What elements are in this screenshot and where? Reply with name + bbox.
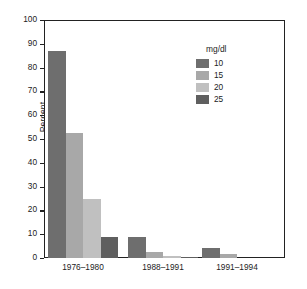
y-tick-label: 100 — [23, 14, 37, 24]
y-tick-label: 90 — [28, 38, 37, 48]
y-tick-label: 50 — [28, 133, 37, 143]
bar — [181, 257, 199, 258]
x-axis-label: 1976–1980 — [43, 262, 123, 272]
x-axis-label: 1988–1991 — [123, 262, 203, 272]
bar — [146, 252, 164, 258]
legend-label: 15 — [214, 71, 223, 80]
bar — [128, 237, 146, 258]
bar — [83, 199, 101, 258]
bar — [48, 51, 66, 258]
bar — [66, 133, 84, 258]
legend-swatch — [196, 71, 209, 80]
bar — [202, 248, 220, 258]
y-tick-label: 70 — [28, 85, 37, 95]
y-tick-label: 40 — [28, 157, 37, 167]
y-tick-label: 80 — [28, 62, 37, 72]
y-tick-label: 30 — [28, 181, 37, 191]
legend-entries: 10152025 — [196, 58, 258, 104]
legend-label: 20 — [214, 83, 223, 92]
legend-item: 20 — [196, 82, 258, 92]
bar — [101, 237, 119, 258]
y-tick-label: 20 — [28, 204, 37, 214]
legend: mg/dl 10152025 — [196, 44, 258, 106]
bar — [220, 254, 238, 258]
legend-label: 25 — [214, 95, 223, 104]
y-tick-label: 60 — [28, 109, 37, 119]
legend-item: 10 — [196, 58, 258, 68]
legend-swatch — [196, 95, 209, 104]
legend-item: 25 — [196, 94, 258, 104]
y-tick-mark — [40, 258, 44, 259]
legend-item: 15 — [196, 70, 258, 80]
bar — [163, 256, 181, 258]
legend-swatch — [196, 83, 209, 92]
legend-label: 10 — [214, 59, 223, 68]
bar-chart: Percent 0102030405060708090100 1976–1980… — [0, 0, 307, 289]
legend-title: mg/dl — [206, 44, 258, 54]
x-axis-label: 1991–1994 — [197, 262, 277, 272]
legend-swatch — [196, 59, 209, 68]
y-tick-label: 0 — [32, 252, 37, 262]
y-tick-label: 10 — [28, 228, 37, 238]
